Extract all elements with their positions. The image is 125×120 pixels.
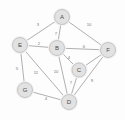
- graph-diagram: 371026410511794 ABCDEFG: [0, 0, 125, 120]
- graph-node-d[interactable]: D: [60, 93, 78, 111]
- edge-weight-b-f: 6: [83, 44, 86, 49]
- edge-weight-b-d: 10: [54, 69, 59, 74]
- graph-node-b[interactable]: B: [48, 39, 66, 57]
- graph-svg: 371026410511794 ABCDEFG: [0, 0, 125, 120]
- edge-weight-a-f: 10: [87, 22, 92, 27]
- graph-node-c[interactable]: C: [70, 61, 87, 78]
- edge-weight-e-d: 11: [34, 70, 39, 75]
- edge-weight-e-b: 2: [38, 41, 41, 46]
- node-label-d: D: [67, 99, 72, 105]
- graph-node-g[interactable]: G: [16, 81, 34, 99]
- graph-node-f[interactable]: F: [99, 41, 117, 59]
- node-label-e: E: [18, 42, 22, 48]
- node-label-a: A: [60, 14, 64, 20]
- node-label-b: B: [55, 45, 59, 51]
- edge-weight-c-d: 7: [70, 80, 73, 85]
- graph-node-e[interactable]: E: [11, 36, 29, 54]
- graph-node-a[interactable]: A: [53, 8, 71, 26]
- node-label-g: G: [23, 87, 28, 93]
- edge-weight-a-b: 7: [55, 31, 58, 36]
- edge-weight-a-e: 3: [37, 22, 40, 27]
- edge-weight-e-g: 5: [16, 66, 19, 71]
- edge-weight-d-f: 9: [91, 78, 94, 83]
- edge-weight-b-c: 4: [68, 55, 71, 60]
- node-label-f: F: [106, 47, 110, 53]
- node-label-c: C: [77, 67, 82, 73]
